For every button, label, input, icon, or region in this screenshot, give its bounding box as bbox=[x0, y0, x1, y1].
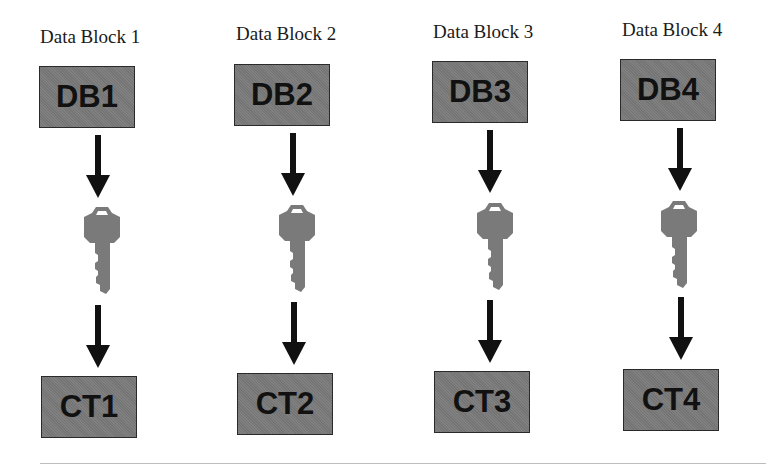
arrow-down-icon bbox=[279, 302, 309, 366]
ciphertext-box: CT3 bbox=[434, 371, 530, 433]
data-block-box: DB1 bbox=[39, 66, 135, 128]
data-block-label: Data Block 4 bbox=[622, 19, 762, 41]
arrow-down-icon bbox=[665, 128, 695, 192]
data-block-box: DB3 bbox=[432, 61, 528, 123]
ciphertext-box: CT4 bbox=[623, 369, 719, 431]
data-block-label: Data Block 2 bbox=[236, 23, 376, 45]
bottom-rule bbox=[40, 463, 766, 464]
arrow-down-icon bbox=[475, 130, 505, 194]
data-block-label: Data Block 1 bbox=[40, 26, 180, 48]
data-block-box: DB4 bbox=[620, 59, 716, 121]
ciphertext-box: CT2 bbox=[237, 373, 333, 435]
block-column-3: Data Block 3 DB3 CT3 bbox=[433, 0, 573, 467]
arrow-down-icon bbox=[83, 305, 113, 369]
key-icon bbox=[659, 199, 699, 289]
arrow-down-icon bbox=[278, 133, 308, 197]
key-icon bbox=[475, 201, 515, 291]
data-block-box: DB2 bbox=[234, 64, 330, 126]
key-icon bbox=[82, 205, 122, 295]
arrow-down-icon bbox=[83, 135, 113, 199]
arrow-down-icon bbox=[666, 297, 696, 361]
block-column-1: Data Block 1 DB1 CT1 bbox=[40, 0, 180, 467]
ciphertext-box: CT1 bbox=[41, 376, 137, 438]
data-block-label: Data Block 3 bbox=[433, 21, 573, 43]
arrow-down-icon bbox=[475, 300, 505, 364]
key-icon bbox=[277, 203, 317, 293]
block-column-4: Data Block 4 DB4 CT4 bbox=[622, 0, 762, 467]
block-column-2: Data Block 2 DB2 CT2 bbox=[236, 0, 376, 467]
